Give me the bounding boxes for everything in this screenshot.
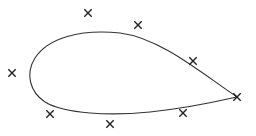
cross-mark-icon (135, 22, 141, 28)
cross-mark-icon (107, 121, 113, 127)
cross-mark-icon (85, 10, 91, 16)
cross-mark-icon (180, 110, 186, 116)
cross-mark-icon (47, 111, 53, 117)
cross-mark-icon (9, 70, 15, 76)
closed-curve (30, 32, 237, 114)
control-point-markers (9, 10, 240, 127)
diagram-canvas (0, 0, 256, 136)
cross-mark-icon (190, 58, 196, 64)
